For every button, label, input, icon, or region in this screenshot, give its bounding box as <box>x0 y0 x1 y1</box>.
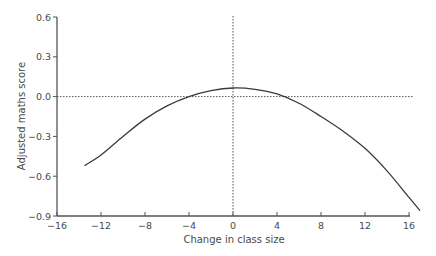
x-tick-label: 0 <box>230 220 236 231</box>
x-tick-label: 8 <box>318 220 324 231</box>
x-tick-label: −16 <box>47 220 67 231</box>
x-tick-label: −8 <box>138 220 152 231</box>
y-tick-label: 0.6 <box>36 12 51 23</box>
x-tick-label: −4 <box>182 220 196 231</box>
y-tick-label: −0.6 <box>28 171 51 182</box>
x-tick-label: 16 <box>403 220 415 231</box>
x-tick-label: −12 <box>91 220 111 231</box>
x-tick-label: 4 <box>274 220 280 231</box>
reference-lines <box>57 16 413 216</box>
y-tick-label: −0.3 <box>28 131 51 142</box>
data-curve <box>85 88 421 211</box>
y-tick-label: 0.3 <box>36 51 51 62</box>
chart: 0.60.30.0−0.3−0.6−0.9−16−12−8−40481216 C… <box>0 0 436 256</box>
x-tick-label: 12 <box>359 220 371 231</box>
y-tick-label: 0.0 <box>36 91 51 102</box>
x-axis-label: Change in class size <box>183 234 284 245</box>
y-axis-label: Adjusted maths score <box>16 62 27 170</box>
ticks: 0.60.30.0−0.3−0.6−0.9−16−12−8−40481216 <box>28 12 415 232</box>
